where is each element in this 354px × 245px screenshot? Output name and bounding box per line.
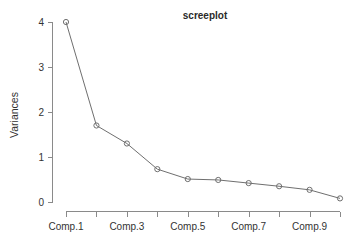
plot-canvas: screeplot Variances 4 3 2 1 0 Comp.1 — [0, 0, 354, 245]
y-axis-label: Variances — [8, 92, 20, 138]
y-tick-label-0: 0 — [38, 197, 44, 208]
y-tick-label-3: 3 — [38, 62, 44, 73]
x-tick-label-comp-7: Comp.7 — [231, 221, 266, 232]
y-tick-label-4: 4 — [38, 17, 44, 28]
x-tick-label-comp-3: Comp.3 — [109, 221, 144, 232]
page-title: screeplot — [183, 10, 228, 21]
y-tick-label-1: 1 — [38, 152, 44, 163]
y-tick-label-2: 2 — [38, 107, 44, 118]
screeplot-chart: screeplot Variances 4 3 2 1 0 Comp.1 — [0, 0, 354, 245]
x-tick-label-comp-1: Comp.1 — [48, 221, 83, 232]
x-tick-label-comp-9: Comp.9 — [292, 221, 327, 232]
x-tick-label-comp-5: Comp.5 — [170, 221, 205, 232]
chart-background — [0, 0, 354, 245]
